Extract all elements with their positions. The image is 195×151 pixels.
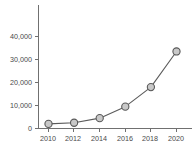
data-point-2014: [96, 115, 103, 122]
y-tick-label-40000: 40,000: [10, 32, 32, 41]
y-tick-label-20000: 20,000: [10, 78, 32, 87]
x-tick-label-2018: 2018: [142, 134, 158, 143]
data-point-2018: [147, 84, 154, 91]
data-point-2010: [45, 120, 52, 127]
data-point-2020: [173, 48, 180, 55]
x-tick-label-2010: 2010: [40, 134, 56, 143]
y-tick-label-10000: 10,000: [10, 101, 32, 110]
x-tick-label-2016: 2016: [117, 134, 133, 143]
chart-canvas: 40,000 30,000 20,000 10,000 0 2010 2012 …: [0, 0, 195, 151]
y-tick-label-30000: 30,000: [10, 55, 32, 64]
x-tick-label-2020: 2020: [168, 134, 184, 143]
x-tick-label-2014: 2014: [91, 134, 107, 143]
data-point-2012: [71, 119, 78, 126]
y-tick-label-0: 0: [28, 124, 32, 133]
x-tick-label-2012: 2012: [65, 134, 81, 143]
data-point-2016: [122, 103, 129, 110]
line-chart: 40,000 30,000 20,000 10,000 0 2010 2012 …: [0, 0, 195, 151]
